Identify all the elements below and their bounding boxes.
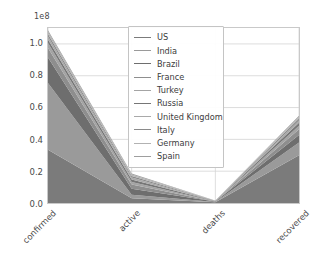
chart-figure: 1e8 0.00.20.40.60.81.0 confirmedactivede… [0,0,327,263]
legend-item[interactable]: Brazil [134,57,218,70]
legend-item-label: Germany [157,139,195,147]
legend-item[interactable]: US [134,31,218,44]
legend-item-label: India [157,47,177,55]
legend-color-swatch-icon [134,63,151,64]
x-axis-tick-label: active [117,208,142,233]
legend-item-label: Italy [157,126,175,134]
y-axis-tick-labels: 0.00.20.40.60.81.0 [0,27,43,204]
x-axis-tick-label: recovered [274,208,311,245]
legend-item[interactable]: Russia [134,97,218,110]
y-axis-tick-label: 0.8 [3,70,43,80]
legend-color-swatch-icon [134,90,151,91]
legend-item[interactable]: Spain [134,150,218,163]
y-axis-tick-label: 0.0 [3,199,43,209]
legend-item[interactable]: Italy [134,123,218,136]
legend-color-swatch-icon [134,50,151,51]
legend-item-label: Brazil [157,60,180,68]
x-axis-tick-label: deaths [199,208,227,236]
legend-color-swatch-icon [134,77,151,78]
y-axis-tick-label: 1.0 [3,38,43,48]
legend-item-label: Spain [157,152,180,160]
legend-item[interactable]: United Kingdom [134,110,218,123]
x-axis-tick-labels: confirmedactivedeathsrecovered [47,204,300,263]
legend-item[interactable]: India [134,44,218,57]
legend-item-label: Turkey [157,86,184,94]
legend-item[interactable]: Turkey [134,84,218,97]
legend-color-swatch-icon [134,156,151,157]
legend-color-swatch-icon [134,143,151,144]
legend-item-label: Russia [157,99,183,107]
y-axis-tick-label: 0.2 [3,167,43,177]
legend-color-swatch-icon [134,116,151,117]
chart-legend[interactable]: USIndiaBrazilFranceTurkeyRussiaUnited Ki… [128,26,224,168]
x-axis-tick-label: confirmed [21,208,58,245]
legend-color-swatch-icon [134,129,151,130]
legend-item-label: United Kingdom [157,113,223,121]
legend-color-swatch-icon [134,37,151,38]
legend-item-label: US [157,33,168,41]
legend-item[interactable]: France [134,71,218,84]
y-axis-tick-label: 0.4 [3,135,43,145]
y-axis-tick-label: 0.6 [3,102,43,112]
legend-color-swatch-icon [134,103,151,104]
y-axis-offset-text: 1e8 [34,12,50,21]
legend-item-label: France [157,73,184,81]
legend-item[interactable]: Germany [134,137,218,150]
